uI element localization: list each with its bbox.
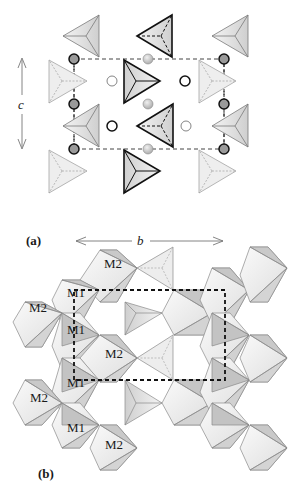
tetrahedron-faded bbox=[199, 60, 236, 103]
octahedron bbox=[240, 335, 287, 382]
tetrahedron-light bbox=[63, 15, 99, 57]
site-label-m1: M1 bbox=[67, 420, 85, 435]
tetrahedron-light bbox=[212, 104, 248, 147]
site-label-m2: M2 bbox=[30, 390, 48, 405]
tetrahedron-b bbox=[125, 302, 162, 335]
tetrahedron-light bbox=[212, 15, 248, 57]
tetrahedron-b bbox=[125, 380, 162, 425]
tetrahedron-faded bbox=[199, 150, 236, 193]
site-label-m1: M1 bbox=[67, 375, 85, 390]
tetrahedron-bold bbox=[124, 150, 160, 193]
tetrahedron-bold-dashed bbox=[137, 15, 172, 57]
octahedron bbox=[240, 425, 287, 470]
m2-site-circles-gray bbox=[143, 54, 153, 154]
panel-b-label: (b) bbox=[38, 466, 54, 481]
tetrahedron-faded bbox=[49, 60, 87, 103]
panel-b: M2 M1 M2 M1 M2 M1 M2 M1 M2 (b) bbox=[13, 247, 287, 481]
site-label-m2: M2 bbox=[29, 300, 47, 315]
site-label-m1: M1 bbox=[67, 285, 85, 300]
octahedron bbox=[240, 247, 287, 302]
tetrahedron-bold-dashed bbox=[137, 104, 173, 147]
site-label-m2: M2 bbox=[105, 437, 123, 452]
b-axis-label: b bbox=[137, 233, 144, 248]
site-label-m2: M2 bbox=[105, 346, 123, 361]
tetrahedron-b bbox=[137, 335, 173, 380]
tetrahedron-b bbox=[137, 247, 173, 290]
tetrahedron-bold bbox=[124, 60, 160, 103]
site-label-m2: M2 bbox=[104, 256, 122, 271]
tetrahedron-faded bbox=[49, 150, 87, 193]
panel-a-label: (a) bbox=[26, 233, 41, 248]
tetrahedron-light bbox=[63, 104, 99, 147]
site-label-m1: M1 bbox=[67, 322, 85, 337]
crystal-structure-figure: c bbox=[0, 0, 300, 491]
b-axis-arrow bbox=[76, 237, 223, 245]
c-axis-label: c bbox=[18, 97, 24, 112]
panel-a: c bbox=[18, 15, 248, 248]
